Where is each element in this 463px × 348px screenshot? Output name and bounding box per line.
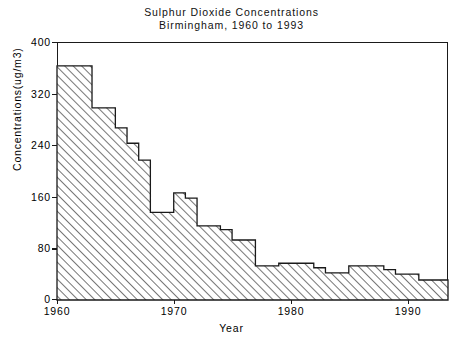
plot-area: 400 320 240 160 80 0 1960 1970 1980 1990 [57, 42, 448, 300]
step-area-series [57, 42, 448, 300]
step-path [57, 66, 448, 300]
chart-title: Sulphur Dioxide Concentrations Birmingha… [0, 6, 463, 32]
y-tick-label-320: 320 [31, 88, 51, 100]
chart-subtitle: Birmingham, 1960 to 1993 [0, 19, 463, 32]
y-tick-label-0: 0 [44, 293, 51, 305]
y-tick-label-400: 400 [31, 36, 51, 48]
x-tick-label-1980: 1980 [278, 305, 305, 317]
y-tick-label-80: 80 [38, 242, 51, 254]
x-tick-label-1990: 1990 [395, 305, 422, 317]
y-tick-label-160: 160 [31, 191, 51, 203]
x-tick-label-1960: 1960 [44, 305, 71, 317]
x-tick-label-1970: 1970 [161, 305, 188, 317]
y-tick-label-240: 240 [31, 139, 51, 151]
x-axis-title: Year [0, 322, 463, 334]
chart-title-line1: Sulphur Dioxide Concentrations [0, 6, 463, 19]
chart-container: Sulphur Dioxide Concentrations Birmingha… [0, 0, 463, 348]
y-axis-title: Concentrations(ug/m3) [11, 47, 23, 171]
